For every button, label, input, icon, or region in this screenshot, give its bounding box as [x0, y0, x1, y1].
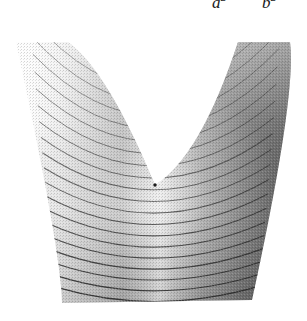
surface-body — [0, 16, 307, 321]
halftone-dither-overlay — [0, 16, 307, 321]
surface-plot-svg — [0, 16, 307, 321]
math-label-a-exponent: 2 — [221, 0, 227, 3]
contour-line — [25, 16, 285, 39]
math-label-b-squared: b2 — [262, 0, 276, 13]
math-label-b-base: b — [262, 0, 271, 12]
math-label-a-squared: a2 — [212, 0, 226, 13]
surface-plot-area — [0, 16, 307, 321]
figure-root: a2 b2 — [0, 0, 307, 321]
math-label-row: a2 b2 — [0, 0, 307, 16]
math-label-a-base: a — [212, 0, 221, 12]
math-label-b-exponent: 2 — [271, 0, 277, 3]
